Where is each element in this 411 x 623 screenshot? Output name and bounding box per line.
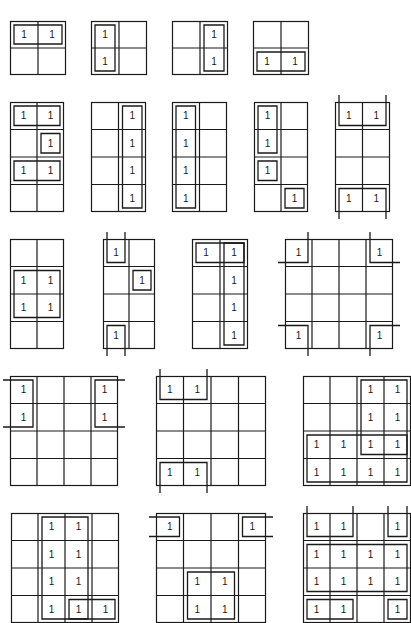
cell-value: 1 [292, 56, 298, 67]
cell-value: 1 [314, 576, 320, 587]
kmap-grid: 11111 [192, 239, 248, 349]
karnaugh-map-11: 111 [103, 239, 155, 349]
cell-value: 1 [296, 247, 302, 258]
karnaugh-map-4: 11 [253, 21, 309, 75]
karnaugh-map-3: 11 [172, 21, 228, 75]
karnaugh-map-14: 1111 [10, 376, 118, 486]
cell-value: 1 [395, 384, 401, 395]
cell-value: 1 [129, 110, 135, 121]
cell-value: 1 [203, 247, 209, 258]
cell-value: 1 [102, 29, 108, 40]
cell-value: 1 [102, 384, 108, 395]
cell-value: 1 [48, 275, 54, 286]
cell-value: 1 [129, 165, 135, 176]
cell-value: 1 [49, 576, 55, 587]
karnaugh-map-17: 111111111 [11, 513, 119, 623]
grouping-loop [278, 326, 308, 357]
cell-value: 1 [113, 330, 119, 341]
karnaugh-map-9: 1111 [335, 102, 390, 212]
cell-value: 1 [249, 521, 255, 532]
cell-value: 1 [368, 467, 374, 478]
cell-value: 1 [102, 412, 108, 423]
kmap-grid: 11111 [10, 102, 64, 212]
cell-value: 1 [222, 604, 228, 615]
cell-value: 1 [48, 165, 54, 176]
cell-value: 1 [377, 247, 383, 258]
cell-value: 1 [21, 110, 27, 121]
grouping-loop [370, 232, 400, 263]
cell-value: 1 [194, 467, 200, 478]
kmap-grid: 111111111 [11, 513, 119, 623]
cell-value: 1 [129, 193, 135, 204]
cell-value: 1 [21, 302, 27, 313]
cell-value: 1 [139, 275, 145, 286]
cell-value: 1 [395, 521, 401, 532]
kmap-grid: 1111 [10, 376, 118, 486]
cell-value: 1 [167, 521, 173, 532]
cell-value: 1 [395, 549, 401, 560]
grouping-loop [278, 232, 308, 263]
cell-value: 1 [368, 412, 374, 423]
cell-value: 1 [264, 56, 270, 67]
cell-value: 1 [265, 110, 271, 121]
karnaugh-map-5: 11111 [10, 102, 64, 212]
cell-value: 1 [395, 604, 401, 615]
cell-value: 1 [395, 439, 401, 450]
kmap-grid: 111 [103, 239, 155, 349]
kmap-grid: 111111111111 [303, 376, 411, 486]
karnaugh-map-12: 11111 [192, 239, 248, 349]
cell-value: 1 [76, 521, 82, 532]
kmap-grid: 1111 [254, 102, 308, 212]
cell-value: 1 [183, 110, 189, 121]
cell-value: 1 [21, 384, 27, 395]
cell-value: 1 [49, 549, 55, 560]
karnaugh-map-7: 1111 [172, 102, 227, 212]
cell-value: 1 [183, 193, 189, 204]
kmap-grid: 1111 [91, 102, 146, 212]
cell-value: 1 [48, 110, 54, 121]
kmap-grid: 1111 [156, 376, 266, 486]
cell-value: 1 [292, 193, 298, 204]
kmap-grid: 11 [10, 21, 66, 75]
karnaugh-map-10: 1111 [10, 239, 64, 349]
cell-value: 1 [341, 604, 347, 615]
cell-value: 1 [341, 439, 347, 450]
cell-value: 1 [113, 247, 119, 258]
kmap-grid: 11111111111111 [303, 513, 411, 623]
cell-value: 1 [341, 521, 347, 532]
cell-value: 1 [341, 467, 347, 478]
cell-value: 1 [346, 193, 352, 204]
cell-value: 1 [296, 330, 302, 341]
karnaugh-map-1: 11 [10, 21, 66, 75]
cell-value: 1 [49, 521, 55, 532]
grouping-loop [370, 326, 400, 357]
cell-value: 1 [194, 604, 200, 615]
cell-value: 1 [341, 549, 347, 560]
karnaugh-map-6: 1111 [91, 102, 146, 212]
cell-value: 1 [76, 576, 82, 587]
cell-value: 1 [183, 138, 189, 149]
cell-value: 1 [314, 604, 320, 615]
cell-value: 1 [314, 521, 320, 532]
cell-value: 1 [314, 549, 320, 560]
kmap-grid: 1111 [10, 239, 64, 349]
cell-value: 1 [21, 275, 27, 286]
cell-value: 1 [48, 138, 54, 149]
karnaugh-map-15: 1111 [156, 376, 266, 486]
cell-value: 1 [314, 439, 320, 450]
kmap-grid: 111111 [156, 513, 266, 623]
cell-value: 1 [314, 467, 320, 478]
cell-value: 1 [395, 467, 401, 478]
karnaugh-map-19: 11111111111111 [303, 513, 411, 623]
kmap-grid: 11 [91, 21, 147, 75]
cell-value: 1 [194, 384, 200, 395]
cell-value: 1 [395, 576, 401, 587]
cell-value: 1 [231, 275, 237, 286]
cell-value: 1 [48, 302, 54, 313]
cell-value: 1 [346, 110, 352, 121]
cell-value: 1 [21, 29, 27, 40]
cell-value: 1 [167, 384, 173, 395]
cell-value: 1 [21, 412, 27, 423]
kmap-grid: 1111 [335, 102, 390, 212]
cell-value: 1 [167, 467, 173, 478]
